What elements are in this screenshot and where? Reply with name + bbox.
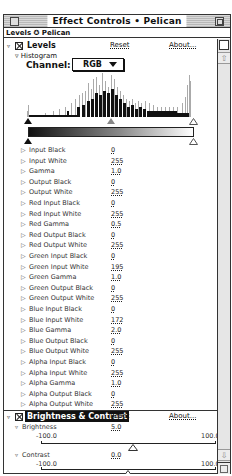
disclosure-open-icon[interactable]: ▿ [7,411,10,422]
disclosure-closed-icon[interactable]: ▷ [21,198,26,208]
param-value[interactable]: 1.0 [111,166,121,176]
param-row[interactable]: ▷Blue Output Black0 [4,336,217,346]
param-row[interactable]: ▷Alpha Input White255 [4,368,217,378]
param-value[interactable]: 172 [111,315,123,325]
param-value[interactable]: 255 [111,399,123,409]
disclosure-closed-icon[interactable]: ▷ [21,389,26,399]
effect-enable-checkbox[interactable] [15,42,23,50]
param-value[interactable]: 0 [111,177,115,187]
effect-enable-checkbox[interactable] [15,413,23,421]
disclosure-closed-icon[interactable]: ▷ [21,187,26,197]
disclosure-closed-icon[interactable]: ▷ [21,336,26,346]
param-row[interactable]: ▷Input White255 [4,156,217,166]
disclosure-closed-icon[interactable]: ▷ [21,304,26,314]
param-row[interactable]: ▷Red Gamma0.5 [4,219,217,229]
param-value[interactable]: 0 [111,230,115,240]
param-value[interactable]: 0 [111,145,115,155]
levels-about-button[interactable]: About... [169,40,196,51]
disclosure-closed-icon[interactable]: ▷ [21,156,26,166]
bc-reset-button[interactable]: Reset [110,411,130,422]
param-value[interactable]: 255 [111,368,123,378]
param-row[interactable]: ▷Alpha Input Black0 [4,357,217,367]
input-white-marker[interactable] [189,118,198,125]
panel-menu-box[interactable] [219,40,229,50]
disclosure-open-icon[interactable]: ▿ [15,52,19,60]
param-row[interactable]: ▷Output White255 [4,187,217,197]
disclosure-open-icon[interactable]: ▿ [7,40,10,51]
param-value[interactable]: 2.0 [111,325,121,335]
output-white-marker[interactable] [189,138,198,145]
param-value[interactable]: 0 [111,336,115,346]
param-value[interactable]: 255 [111,156,123,166]
param-value[interactable]: 0 [111,357,115,367]
param-row[interactable]: ▷Alpha Gamma1.0 [4,378,217,388]
histogram-group[interactable]: ▿ Histogram [15,52,57,60]
title-bar[interactable]: Effect Controls • Pelican [4,15,230,28]
param-value[interactable]: 255 [111,293,123,303]
input-black-marker[interactable] [24,118,32,124]
channel-dropdown[interactable]: RGB [72,58,124,71]
param-row[interactable]: ▷Green Input White195 [4,262,217,272]
zoom-box-icon[interactable] [215,17,224,26]
param-row[interactable]: ▷Green Gamma1.0 [4,272,217,282]
param-row[interactable]: ▷Alpha Output Black0 [4,389,217,399]
disclosure-closed-icon[interactable]: ▷ [21,177,26,187]
disclosure-closed-icon[interactable]: ▷ [21,145,26,155]
param-row[interactable]: ▷Red Output Black0 [4,230,217,240]
disclosure-closed-icon[interactable]: ▷ [21,368,26,378]
param-value[interactable]: 0 [111,251,115,261]
levels-reset-button[interactable]: Reset [110,40,130,51]
vertical-scrollbar[interactable]: ⇧ ⇩ [217,39,230,474]
param-row[interactable]: ▷Red Input White255 [4,209,217,219]
close-box-icon[interactable] [10,17,19,26]
contrast-slider-thumb[interactable] [123,470,133,474]
bc-about-button[interactable]: About... [169,411,196,422]
disclosure-closed-icon[interactable]: ▷ [21,315,26,325]
param-value[interactable]: 255 [111,346,123,356]
output-black-marker[interactable] [24,138,32,144]
disclosure-closed-icon[interactable]: ▷ [21,378,26,388]
param-row[interactable]: ▷Green Output Black0 [4,283,217,293]
param-value[interactable]: 255 [111,209,123,219]
param-row[interactable]: ▷Red Output White255 [4,240,217,250]
disclosure-closed-icon[interactable]: ▷ [21,293,26,303]
scroll-up-arrow-icon[interactable]: ⇧ [218,52,230,64]
param-value[interactable]: 0 [111,304,115,314]
disclosure-closed-icon[interactable]: ▷ [21,209,26,219]
param-row[interactable]: ▷Blue Input Black0 [4,304,217,314]
scroll-down-arrow-icon[interactable]: ⇩ [218,449,230,461]
disclosure-closed-icon[interactable]: ▷ [21,262,26,272]
param-row[interactable]: ▷Gamma1.0 [4,166,217,176]
param-row[interactable]: ▷Blue Input White172 [4,315,217,325]
gamma-marker[interactable] [107,118,115,124]
param-row[interactable]: ▷Green Output White255 [4,293,217,303]
param-row[interactable]: ▷Output Black0 [4,177,217,187]
param-value[interactable]: 255 [111,240,123,250]
param-row[interactable]: ▷Blue Gamma2.0 [4,325,217,335]
param-row[interactable]: ▷Alpha Output White255 [4,399,217,409]
param-row[interactable]: ▷Blue Output White255 [4,346,217,356]
param-row[interactable]: ▷Green Input Black0 [4,251,217,261]
resize-grow-box-icon[interactable] [218,462,230,474]
param-value[interactable]: 0 [111,198,115,208]
disclosure-closed-icon[interactable]: ▷ [21,230,26,240]
disclosure-closed-icon[interactable]: ▷ [21,240,26,250]
disclosure-closed-icon[interactable]: ▷ [21,166,26,176]
disclosure-closed-icon[interactable]: ▷ [21,219,26,229]
param-value[interactable]: 0.5 [111,219,121,229]
param-row[interactable]: ▷Red Input Black0 [4,198,217,208]
disclosure-closed-icon[interactable]: ▷ [21,346,26,356]
param-value[interactable]: 0 [111,389,115,399]
param-value[interactable]: 1.0 [111,272,121,282]
disclosure-closed-icon[interactable]: ▷ [21,251,26,261]
disclosure-closed-icon[interactable]: ▷ [21,325,26,335]
disclosure-closed-icon[interactable]: ▷ [21,272,26,282]
param-value[interactable]: 1.0 [111,378,121,388]
layer-tab[interactable]: Levels ✪ Pelican [4,28,230,38]
param-value[interactable]: 255 [111,187,123,197]
param-value[interactable]: 0 [111,283,115,293]
disclosure-closed-icon[interactable]: ▷ [21,283,26,293]
disclosure-closed-icon[interactable]: ▷ [21,357,26,367]
param-row[interactable]: ▷Input Black0 [4,145,217,155]
param-value[interactable]: 195 [111,262,123,272]
